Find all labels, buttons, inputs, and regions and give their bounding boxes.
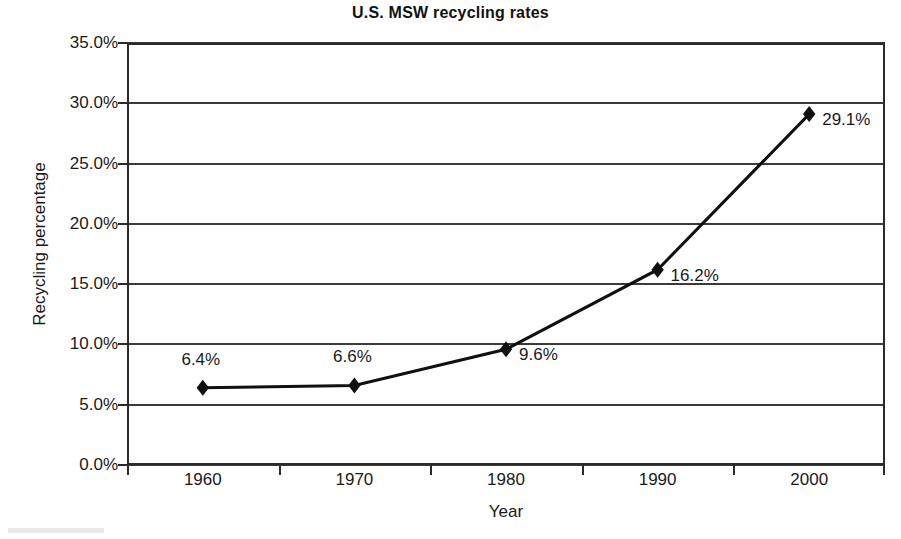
data-point-label: 6.6% xyxy=(333,347,372,367)
scan-artifact xyxy=(8,528,104,533)
line-series xyxy=(127,43,885,465)
y-tick-mark xyxy=(118,42,127,44)
y-tick-label: 35.0% xyxy=(8,33,118,53)
y-tick-mark xyxy=(118,404,127,406)
data-point-label: 16.2% xyxy=(671,266,719,286)
chart-title: U.S. MSW recycling rates xyxy=(0,4,901,22)
data-point-label: 29.1% xyxy=(822,110,870,130)
y-tick-label: 15.0% xyxy=(8,274,118,294)
y-tick-mark xyxy=(118,163,127,165)
data-point-marker xyxy=(500,341,512,357)
x-tick-label: 1960 xyxy=(143,470,263,490)
y-tick-label: 0.0% xyxy=(8,455,118,475)
data-point-marker xyxy=(348,377,360,393)
x-tick-label: 1980 xyxy=(446,470,566,490)
y-tick-mark xyxy=(118,464,127,466)
y-axis-tick-labels: 0.0%5.0%10.0%15.0%20.0%25.0%30.0%35.0% xyxy=(0,43,118,465)
y-tick-label: 10.0% xyxy=(8,334,118,354)
y-tick-label: 5.0% xyxy=(8,395,118,415)
x-axis-title: Year xyxy=(127,502,885,522)
x-tick-label: 1990 xyxy=(598,470,718,490)
data-point-marker xyxy=(197,380,209,396)
y-tick-label: 25.0% xyxy=(8,154,118,174)
x-tick-label: 2000 xyxy=(749,470,869,490)
x-tick-label: 1970 xyxy=(294,470,414,490)
y-tick-label: 30.0% xyxy=(8,93,118,113)
x-axis-tick-labels: 19601970198019902000 xyxy=(127,470,885,500)
data-point-label: 6.4% xyxy=(181,350,220,370)
data-point-label: 9.6% xyxy=(519,345,558,365)
chart-figure: U.S. MSW recycling rates Recycling perce… xyxy=(0,0,901,539)
y-tick-mark xyxy=(118,223,127,225)
plot-area: 6.4%6.6%9.6%16.2%29.1% xyxy=(127,43,885,465)
y-tick-label: 20.0% xyxy=(8,214,118,234)
y-tick-mark xyxy=(118,102,127,104)
y-tick-mark xyxy=(118,343,127,345)
y-tick-mark xyxy=(118,283,127,285)
